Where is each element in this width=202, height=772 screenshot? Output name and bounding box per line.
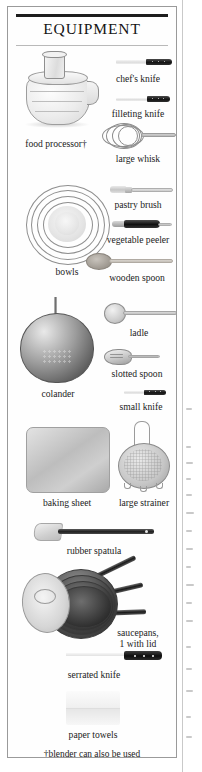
caption-wooden-spoon: wooden spoon <box>96 272 177 283</box>
item-colander <box>20 297 96 383</box>
caption-chefs-knife: chef's knife <box>100 73 176 84</box>
food-processor-icon <box>22 51 98 131</box>
baking-sheet-icon <box>26 427 110 493</box>
colander-icon <box>20 297 96 383</box>
caption-pastry-brush: pastry brush <box>100 199 176 210</box>
item-baking-sheet <box>26 427 108 491</box>
caption-serrated-knife: serrated knife <box>50 669 138 680</box>
item-paper-towels <box>66 691 120 727</box>
item-ladle <box>104 303 177 323</box>
caption-small-knife: small knife <box>104 401 177 412</box>
item-small-knife <box>124 389 166 397</box>
column-divider <box>182 0 183 772</box>
item-vegetable-peeler <box>112 220 174 230</box>
whisk-icon <box>102 123 177 149</box>
caption-colander: colander <box>16 388 100 399</box>
item-rubber-spatula <box>34 523 156 541</box>
caption-vegetable-peeler: vegetable peeler <box>96 234 177 245</box>
panel-header: EQUIPMENT <box>8 7 176 46</box>
caption-filleting-knife: filleting knife <box>100 108 176 119</box>
item-wooden-spoon <box>86 253 174 269</box>
equipment-panel: EQUIPMENT food processor† chef's knife <box>7 6 177 758</box>
caption-ladle: ladle <box>104 327 174 338</box>
adjacent-column-bleed <box>180 0 202 772</box>
caption-saucepans: saucepans,1 with lid <box>98 627 177 649</box>
filleting-knife-icon <box>116 96 170 102</box>
caption-rubber-spatula: rubber spatula <box>46 545 142 556</box>
caption-saucepans-line1: saucepans, <box>117 627 158 638</box>
pastry-brush-icon <box>110 185 174 195</box>
paper-towels-icon <box>66 691 120 725</box>
small-knife-icon <box>124 389 166 395</box>
item-large-strainer <box>116 421 174 493</box>
vegetable-peeler-icon <box>112 220 174 230</box>
item-chefs-knife <box>116 59 172 67</box>
item-food-processor <box>22 51 98 131</box>
item-serrated-knife <box>66 651 162 663</box>
slotted-spoon-icon <box>104 349 174 365</box>
item-large-whisk <box>102 123 177 149</box>
caption-baking-sheet: baking sheet <box>20 497 114 508</box>
caption-saucepans-line2: 1 with lid <box>120 638 157 649</box>
caption-large-whisk: large whisk <box>100 153 176 164</box>
chefs-knife-icon <box>116 59 172 65</box>
footnote: †blender can also be used <box>8 749 176 758</box>
rubber-spatula-icon <box>34 523 156 541</box>
ladle-icon <box>104 303 177 323</box>
caption-food-processor: food processor† <box>10 138 102 149</box>
caption-slotted-spoon: slotted spoon <box>96 368 177 379</box>
item-pastry-brush <box>110 185 174 195</box>
strainer-icon <box>116 421 174 493</box>
wooden-spoon-icon <box>86 253 174 269</box>
item-filleting-knife <box>116 96 170 104</box>
page-title: EQUIPMENT <box>8 17 176 40</box>
serrated-knife-icon <box>66 651 162 663</box>
header-rule-bottom <box>16 45 168 46</box>
caption-paper-towels: paper towels <box>48 729 138 740</box>
item-slotted-spoon <box>104 349 174 365</box>
caption-large-strainer: large strainer <box>108 497 177 508</box>
